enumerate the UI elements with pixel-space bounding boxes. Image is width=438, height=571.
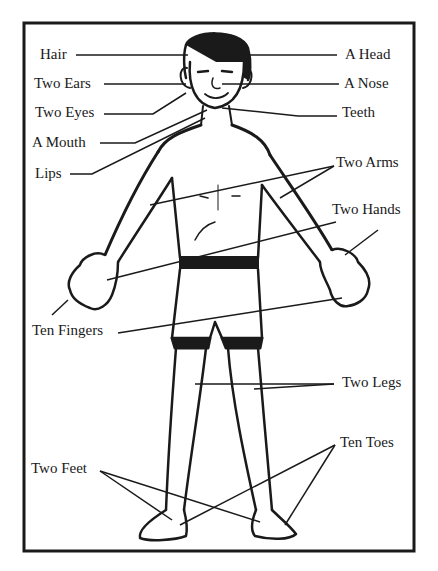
figure-outline (69, 33, 370, 540)
label-two-feet: Two Feet (31, 461, 87, 476)
label-teeth: Teeth (342, 105, 375, 120)
label-a-head: A Head (345, 47, 390, 62)
label-two-ears: Two Ears (34, 76, 91, 91)
label-ten-toes: Ten Toes (340, 435, 394, 450)
label-ten-fingers: Ten Fingers (32, 323, 103, 338)
label-hair: Hair (40, 47, 67, 62)
body-parts-diagram: Hair Two Ears Two Eyes A Mouth Lips A He… (0, 0, 438, 571)
label-two-arms: Two Arms (336, 155, 399, 170)
label-two-hands: Two Hands (332, 202, 401, 217)
label-a-nose: A Nose (344, 76, 389, 91)
label-two-eyes: Two Eyes (35, 105, 94, 120)
label-a-mouth: A Mouth (32, 135, 86, 150)
label-two-legs: Two Legs (342, 375, 401, 390)
label-lips: Lips (35, 166, 62, 181)
